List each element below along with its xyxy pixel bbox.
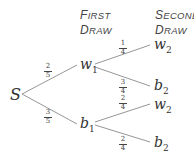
header-first-draw: FIRST DRAW [80, 8, 112, 38]
prob-s-b1: 35 [44, 109, 52, 125]
prob-b1-w2: 24 [119, 95, 127, 111]
prob-w1-b2: 34 [119, 79, 127, 95]
node-b2-top: b2 [154, 77, 169, 96]
node-w1: w1 [80, 56, 98, 75]
prob-s-w1: 25 [44, 63, 52, 79]
header-second-draw: SECOND DRAW [155, 8, 194, 38]
node-b1: b1 [80, 115, 95, 134]
node-w2-bottom: w2 [154, 96, 172, 115]
node-w2-top: w2 [154, 36, 172, 55]
prob-w1-w2: 14 [119, 40, 127, 56]
prob-b1-b2: 24 [119, 136, 127, 152]
node-start: S [10, 85, 21, 104]
node-b2-bottom: b2 [154, 134, 169, 153]
